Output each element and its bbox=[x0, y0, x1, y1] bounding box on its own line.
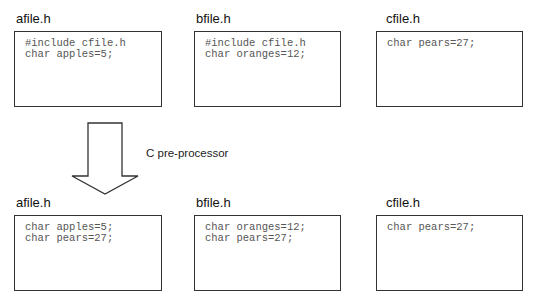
after-bfile-code: char oranges=12;char pears=27; bbox=[205, 222, 306, 244]
after-afile-box: char apples=5;char pears=27; bbox=[14, 215, 162, 291]
after-cfile-code: char pears=27; bbox=[387, 222, 475, 233]
after-bfile-title: bfile.h bbox=[196, 195, 231, 210]
after-afile-title: afile.h bbox=[16, 195, 51, 210]
after-bfile-box: char oranges=12;char pears=27; bbox=[194, 215, 341, 291]
after-cfile-box: char pears=27; bbox=[376, 215, 523, 291]
preprocessor-label: C pre-processor bbox=[146, 147, 228, 159]
code-line: char pears=27; bbox=[205, 233, 306, 244]
code-line: char pears=27; bbox=[387, 222, 475, 233]
after-afile-code: char apples=5;char pears=27; bbox=[25, 222, 113, 244]
after-cfile-title: cfile.h bbox=[386, 195, 420, 210]
code-line: char pears=27; bbox=[25, 233, 113, 244]
